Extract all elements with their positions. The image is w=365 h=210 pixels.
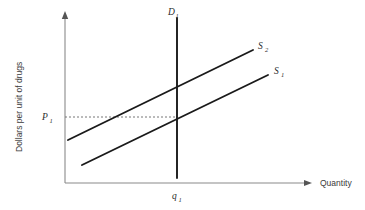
svg-text:q: q (172, 191, 177, 201)
svg-text:P: P (41, 112, 48, 122)
svg-text:1: 1 (50, 117, 53, 124)
supply-s2-curve-label: S 2 (258, 41, 269, 53)
demand-curve-label: D 1 (167, 7, 179, 19)
svg-text:1: 1 (281, 71, 284, 78)
x-axis-label: Quantity (320, 178, 352, 188)
price-axis-label: P 1 (41, 112, 53, 124)
svg-text:S: S (274, 66, 279, 76)
quantity-axis-label: q 1 (172, 191, 182, 203)
x-axis-arrow-icon (304, 180, 312, 186)
svg-text:2: 2 (265, 46, 269, 53)
supply-demand-diagram: Dollars per unit of drugs Quantity D 1 S… (0, 0, 365, 210)
svg-text:1: 1 (176, 12, 179, 19)
y-axis-label: Dollars per unit of drugs (14, 62, 24, 152)
y-axis-arrow-icon (62, 11, 68, 19)
svg-text:D: D (167, 7, 175, 17)
supply-s1-curve-label: S 1 (274, 66, 284, 78)
svg-text:1: 1 (179, 196, 182, 203)
svg-text:S: S (258, 41, 263, 51)
figure-container: Dollars per unit of drugs Quantity D 1 S… (0, 0, 365, 210)
